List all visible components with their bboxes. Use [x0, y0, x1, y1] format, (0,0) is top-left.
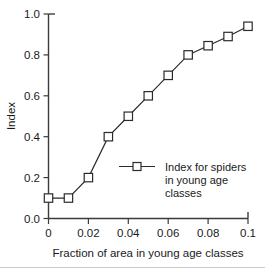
data-point-marker — [104, 133, 112, 141]
x-tick-label-0_02: 0.02 — [77, 227, 99, 239]
y-tick-label-0_4: 0.4 — [24, 131, 41, 143]
data-point-marker — [44, 194, 52, 202]
y-tick-marks — [44, 14, 49, 219]
y-axis-title: Index — [5, 102, 17, 130]
data-point-marker — [244, 22, 252, 30]
data-point-marker — [144, 92, 152, 100]
x-tick-label-0_06: 0.06 — [157, 227, 179, 239]
y-tick-labels: 1.0 0.8 0.6 0.4 0.2 0.0 — [24, 8, 41, 225]
data-point-marker — [184, 51, 192, 59]
x-tick-label-0_1: 0.1 — [240, 227, 256, 239]
legend-marker-open-square — [133, 163, 141, 171]
x-tick-labels: 0 0.02 0.04 0.06 0.08 0.1 — [45, 227, 256, 239]
legend-label-line-1: Index for spiders — [165, 161, 247, 173]
line-chart-canvas: 1.0 0.8 0.6 0.4 0.2 0.0 0 0.02 0.04 0.06… — [0, 0, 265, 271]
x-tick-label-0_04: 0.04 — [117, 227, 140, 239]
data-point-marker — [204, 42, 212, 50]
x-tick-marks — [49, 219, 249, 225]
y-tick-label-0_8: 0.8 — [24, 49, 40, 61]
data-point-marker — [224, 32, 232, 40]
x-tick-label-0: 0 — [45, 227, 51, 239]
y-tick-label-0_6: 0.6 — [24, 90, 40, 102]
y-tick-label-0_0: 0.0 — [24, 213, 40, 225]
data-point-marker — [84, 173, 92, 181]
data-point-marker — [64, 194, 72, 202]
legend-label-line-2: in young age — [165, 174, 228, 186]
legend-label-line-3: classes — [165, 187, 202, 199]
data-point-marker — [124, 112, 132, 120]
x-tick-label-0_08: 0.08 — [197, 227, 219, 239]
y-tick-label-0_2: 0.2 — [24, 172, 40, 184]
y-tick-label-1_0: 1.0 — [24, 8, 40, 20]
x-axis-title: Fraction of area in young age classes — [52, 247, 243, 259]
data-point-marker — [164, 71, 172, 79]
chart-legend: Index for spiders in young age classes — [119, 161, 247, 199]
chart-figure: 1.0 0.8 0.6 0.4 0.2 0.0 0 0.02 0.04 0.06… — [0, 0, 265, 271]
